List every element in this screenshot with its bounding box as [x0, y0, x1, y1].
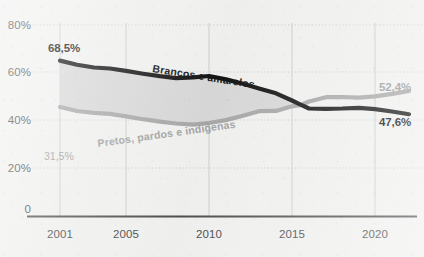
annotation-dark-start-value: 68,5%: [48, 42, 80, 54]
annotation-gray-end-value: 52,4%: [379, 81, 411, 93]
x-tick-2010: 2010: [196, 228, 222, 240]
y-tick-20: 20%: [8, 162, 31, 174]
y-tick-80: 80%: [8, 19, 31, 31]
x-tick-2015: 2015: [279, 228, 305, 240]
chart-container: 80% 60% 40% 20% 0 2001 2005 2010 2015 20…: [0, 0, 424, 257]
line-chart-svg: 80% 60% 40% 20% 0 2001 2005 2010 2015 20…: [0, 0, 424, 257]
x-tick-2005: 2005: [113, 228, 139, 240]
x-axis-tick-labels: 2001 2005 2010 2015 2020: [47, 228, 388, 240]
x-tick-2020: 2020: [362, 228, 388, 240]
y-tick-0: 0: [25, 203, 32, 215]
y-tick-40: 40%: [8, 114, 31, 126]
annotation-dark-end-value: 47,6%: [379, 116, 411, 128]
annotation-gray-start-value: 31,5%: [44, 150, 74, 162]
y-tick-60: 60%: [8, 66, 31, 78]
x-tick-2001: 2001: [47, 228, 73, 240]
y-axis-tick-labels: 80% 60% 40% 20% 0: [8, 19, 31, 215]
